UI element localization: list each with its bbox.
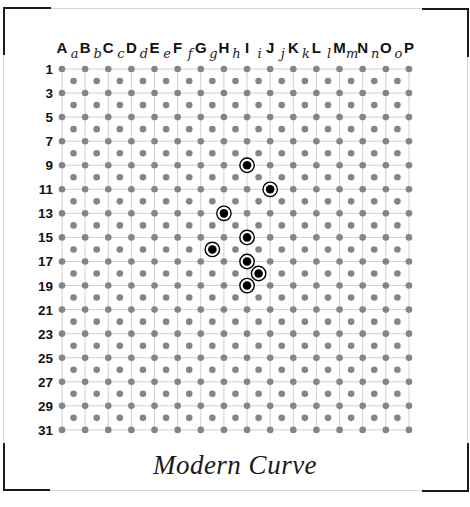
board-point[interactable]: [140, 246, 147, 253]
board-point[interactable]: [151, 403, 158, 410]
board-point[interactable]: [209, 342, 216, 349]
board-point[interactable]: [302, 270, 309, 277]
board-point[interactable]: [394, 294, 401, 301]
board-point[interactable]: [151, 234, 158, 241]
board-point[interactable]: [359, 378, 366, 385]
board-point[interactable]: [151, 162, 158, 169]
board-point[interactable]: [82, 282, 89, 289]
board-point[interactable]: [209, 270, 216, 277]
board-point[interactable]: [197, 90, 204, 97]
board-point[interactable]: [117, 174, 124, 181]
board-point[interactable]: [244, 306, 251, 313]
board-point[interactable]: [302, 366, 309, 373]
board-point[interactable]: [394, 222, 401, 229]
board-point[interactable]: [383, 138, 390, 145]
board-point[interactable]: [140, 366, 147, 373]
board-point[interactable]: [406, 306, 413, 313]
board-point[interactable]: [255, 318, 262, 325]
board-point[interactable]: [313, 210, 320, 217]
board-point[interactable]: [70, 246, 77, 253]
board-point[interactable]: [313, 330, 320, 337]
board-point[interactable]: [82, 403, 89, 410]
board-point[interactable]: [151, 90, 158, 97]
board-point[interactable]: [267, 427, 274, 434]
board-point[interactable]: [151, 427, 158, 434]
board-point[interactable]: [197, 282, 204, 289]
board-point[interactable]: [105, 114, 112, 121]
board-point[interactable]: [209, 318, 216, 325]
board-point[interactable]: [221, 354, 228, 361]
board-point[interactable]: [313, 66, 320, 73]
board-point[interactable]: [383, 403, 390, 410]
board-point[interactable]: [128, 258, 135, 265]
board-point[interactable]: [244, 66, 251, 73]
board-point[interactable]: [394, 78, 401, 85]
board-point[interactable]: [186, 270, 193, 277]
board-point[interactable]: [209, 102, 216, 109]
board-point[interactable]: [255, 246, 262, 253]
board-point[interactable]: [128, 378, 135, 385]
board-point[interactable]: [140, 294, 147, 301]
board-point[interactable]: [232, 222, 239, 229]
board-point[interactable]: [128, 210, 135, 217]
board-point[interactable]: [406, 66, 413, 73]
selected-point-marker[interactable]: [240, 254, 254, 268]
board-point[interactable]: [140, 174, 147, 181]
board-point[interactable]: [313, 90, 320, 97]
board-point[interactable]: [302, 391, 309, 398]
board-point[interactable]: [163, 246, 170, 253]
board-point[interactable]: [348, 270, 355, 277]
board-point[interactable]: [325, 174, 332, 181]
board-point[interactable]: [383, 378, 390, 385]
board-point[interactable]: [267, 403, 274, 410]
board-point[interactable]: [278, 270, 285, 277]
board-point[interactable]: [302, 294, 309, 301]
board-point[interactable]: [209, 78, 216, 85]
board-point[interactable]: [59, 162, 66, 169]
board-point[interactable]: [232, 391, 239, 398]
board-point[interactable]: [383, 282, 390, 289]
board-point[interactable]: [302, 78, 309, 85]
board-point[interactable]: [105, 66, 112, 73]
board-point[interactable]: [209, 366, 216, 373]
board-point[interactable]: [105, 210, 112, 217]
board-point[interactable]: [336, 306, 343, 313]
board-point[interactable]: [82, 66, 89, 73]
board-point[interactable]: [105, 90, 112, 97]
board-point[interactable]: [70, 415, 77, 422]
board-point[interactable]: [82, 210, 89, 217]
board-point[interactable]: [348, 198, 355, 205]
board-point[interactable]: [406, 378, 413, 385]
board-point[interactable]: [105, 330, 112, 337]
board-point[interactable]: [209, 174, 216, 181]
board-point[interactable]: [267, 282, 274, 289]
board-point[interactable]: [290, 114, 297, 121]
board-point[interactable]: [151, 306, 158, 313]
board-point[interactable]: [313, 138, 320, 145]
board-point[interactable]: [128, 354, 135, 361]
board-point[interactable]: [117, 318, 124, 325]
board-point[interactable]: [93, 415, 100, 422]
board-point[interactable]: [151, 354, 158, 361]
board-point[interactable]: [151, 114, 158, 121]
board-point[interactable]: [197, 210, 204, 217]
selected-point-marker[interactable]: [251, 266, 265, 280]
board-point[interactable]: [302, 318, 309, 325]
board-point[interactable]: [82, 114, 89, 121]
board-point[interactable]: [59, 427, 66, 434]
board-point[interactable]: [232, 78, 239, 85]
board-point[interactable]: [406, 186, 413, 193]
board-point[interactable]: [105, 427, 112, 434]
board-point[interactable]: [278, 391, 285, 398]
board-point[interactable]: [290, 306, 297, 313]
board-point[interactable]: [313, 162, 320, 169]
board-point[interactable]: [59, 66, 66, 73]
board-point[interactable]: [186, 246, 193, 253]
board-point[interactable]: [186, 391, 193, 398]
board-point[interactable]: [70, 270, 77, 277]
board-point[interactable]: [197, 186, 204, 193]
board-point[interactable]: [267, 162, 274, 169]
board-point[interactable]: [325, 366, 332, 373]
board-point[interactable]: [325, 246, 332, 253]
board-point[interactable]: [394, 246, 401, 253]
